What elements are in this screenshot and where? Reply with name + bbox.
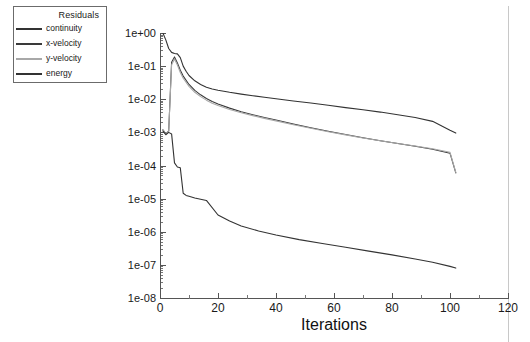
- y-tick-label: 1e-07: [100, 259, 156, 271]
- legend-label-x-velocity: x-velocity: [46, 38, 81, 48]
- y-tick-label: 1e-02: [100, 93, 156, 105]
- series-line-y-velocity: [163, 59, 456, 172]
- x-tick-label: 20: [198, 301, 238, 315]
- y-tick-label-text: 1e-01: [104, 60, 156, 72]
- y-tick-label-text: 1e-06: [104, 226, 156, 238]
- series-line-continuity: [163, 33, 456, 133]
- legend-entry-continuity: continuity: [14, 22, 108, 36]
- y-tick-label: 1e-06: [100, 226, 156, 238]
- legend-swatch-energy: [16, 73, 42, 75]
- y-tick-label-text: 1e+00: [104, 27, 156, 39]
- y-tick-label-text: 1e-04: [104, 160, 156, 172]
- y-tick-label: 1e-01: [100, 60, 156, 72]
- legend-label-energy: energy: [46, 68, 72, 78]
- figure-right-border: [508, 6, 509, 342]
- legend-entry-x-velocity: x-velocity: [14, 37, 108, 51]
- series-line-x-velocity: [163, 57, 456, 173]
- y-tick-label-text: 1e-03: [104, 126, 156, 138]
- series-line-energy: [163, 131, 456, 268]
- y-tick-label: 1e+00: [100, 27, 156, 39]
- legend-swatch-x-velocity: [16, 43, 42, 45]
- legend-swatch-continuity: [16, 28, 42, 30]
- chart-legend: Residuals continuityx-velocityy-velocity…: [13, 6, 107, 83]
- x-tick-label: 60: [314, 301, 354, 315]
- x-tick-major: [508, 293, 509, 299]
- legend-swatch-y-velocity: [16, 58, 42, 60]
- plot-curves: [160, 33, 508, 298]
- legend-entry-y-velocity: y-velocity: [14, 52, 108, 66]
- residuals-chart-figure: Residuals continuityx-velocityy-velocity…: [0, 0, 530, 342]
- y-tick-label-text: 1e-02: [104, 93, 156, 105]
- x-tick-label: 40: [256, 301, 296, 315]
- legend-title: Residuals: [59, 10, 99, 20]
- x-tick-label: 120: [488, 301, 528, 315]
- y-tick-label: 1e-05: [100, 193, 156, 205]
- y-tick-label: 1e-03: [100, 126, 156, 138]
- y-tick-label-text: 1e-07: [104, 259, 156, 271]
- y-tick-label: 1e-04: [100, 160, 156, 172]
- x-axis-title: Iterations: [160, 316, 508, 334]
- x-tick-label: 80: [372, 301, 412, 315]
- y-tick-label-text: 1e-05: [104, 193, 156, 205]
- legend-entry-energy: energy: [14, 67, 108, 81]
- x-tick-label: 100: [430, 301, 470, 315]
- x-tick-label: 0: [140, 301, 180, 315]
- legend-label-y-velocity: y-velocity: [46, 53, 81, 63]
- legend-label-continuity: continuity: [46, 23, 82, 33]
